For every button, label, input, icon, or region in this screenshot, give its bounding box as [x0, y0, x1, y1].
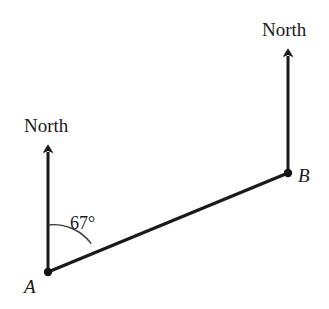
point-b-label: B	[298, 165, 310, 186]
north-label-left: North	[24, 115, 69, 136]
north-label-right: North	[262, 19, 307, 40]
diagram-canvas: North North A B 67°	[0, 0, 329, 309]
angle-label: 67°	[70, 213, 95, 233]
point-b-dot	[284, 169, 292, 177]
bearing-diagram-figure: North North A B 67°	[0, 0, 329, 309]
point-a-label: A	[22, 276, 36, 297]
point-a-dot	[44, 268, 52, 276]
